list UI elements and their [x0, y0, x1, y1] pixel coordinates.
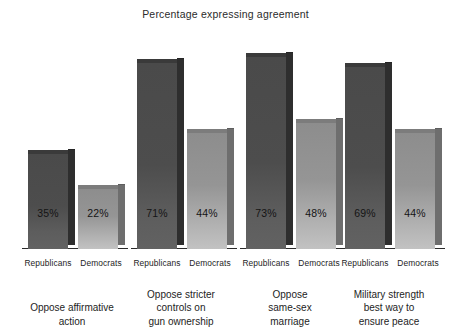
- bar-side-face: [227, 129, 234, 245]
- bar-democrats[interactable]: 48%: [296, 123, 336, 249]
- bar-republicans[interactable]: 71%: [137, 63, 177, 249]
- bar-value-label: 71%: [137, 207, 177, 219]
- bar-group-military-strength-ensures-peace: 69% 44% Republicans Democrats Military s…: [333, 0, 449, 332]
- caption-line-1: Oppose affirmative: [10, 301, 134, 315]
- bar-front-face: [137, 63, 177, 249]
- bar-group-oppose-stricter-gun-controls: 71% 44% Republicans Democrats Oppose str…: [123, 0, 239, 332]
- bar-side-face: [435, 129, 442, 245]
- caption-line-1: Oppose stricter: [119, 288, 243, 302]
- bar-value-label: 48%: [296, 207, 336, 219]
- caption-line-1: Military strength: [327, 288, 451, 302]
- bar-side-face: [336, 119, 343, 245]
- bar-value-label: 69%: [345, 207, 385, 219]
- bar-group-oppose-affirmative-action: 35% 22% Republicans Democrats Oppose aff…: [14, 0, 130, 332]
- bar-front-face: [345, 67, 385, 249]
- bar-front-face: [246, 57, 286, 249]
- bar-front-face: [187, 133, 227, 249]
- bar-chart: Percentage expressing agreement 35% 22% …: [0, 0, 451, 332]
- caption-line-2: best way to: [327, 301, 451, 315]
- bar-republicans[interactable]: 73%: [246, 57, 286, 249]
- party-label-republicans: Republicans: [236, 258, 296, 268]
- bar-front-face: [28, 154, 68, 249]
- party-label-democrats: Democrats: [71, 258, 131, 268]
- group-caption: Military strength best way to ensure pea…: [327, 288, 451, 329]
- bar-side-face: [385, 63, 392, 245]
- bar-democrats[interactable]: 22%: [78, 189, 118, 249]
- bar-value-label: 44%: [395, 207, 435, 219]
- bar-side-face: [177, 59, 184, 245]
- bar-value-label: 22%: [78, 207, 118, 219]
- bar-democrats[interactable]: 44%: [187, 133, 227, 249]
- party-label-democrats: Democrats: [388, 258, 448, 268]
- bar-republicans[interactable]: 69%: [345, 67, 385, 249]
- bar-side-face: [68, 150, 75, 245]
- bar-value-label: 35%: [28, 207, 68, 219]
- caption-line-2: action: [10, 315, 134, 329]
- bar-side-face: [118, 185, 125, 245]
- party-label-republicans: Republicans: [18, 258, 78, 268]
- bar-front-face: [296, 123, 336, 249]
- caption-line-3: ensure peace: [327, 315, 451, 329]
- party-label-republicans: Republicans: [127, 258, 187, 268]
- bar-democrats[interactable]: 44%: [395, 133, 435, 249]
- bar-group-oppose-same-sex-marriage: 73% 48% Republicans Democrats Oppose sam…: [232, 0, 348, 332]
- party-label-democrats: Democrats: [180, 258, 240, 268]
- party-label-republicans: Republicans: [335, 258, 395, 268]
- bar-front-face: [78, 189, 118, 249]
- group-caption: Oppose affirmative action: [10, 301, 134, 328]
- bar-value-label: 73%: [246, 207, 286, 219]
- caption-line-3: gun ownership: [119, 315, 243, 329]
- plot-area: 35% 22% Republicans Democrats Oppose aff…: [0, 0, 451, 332]
- bar-value-label: 44%: [187, 207, 227, 219]
- bar-front-face: [395, 133, 435, 249]
- group-caption: Oppose stricter controls on gun ownershi…: [119, 288, 243, 329]
- bar-republicans[interactable]: 35%: [28, 154, 68, 249]
- caption-line-2: controls on: [119, 301, 243, 315]
- bar-side-face: [286, 53, 293, 245]
